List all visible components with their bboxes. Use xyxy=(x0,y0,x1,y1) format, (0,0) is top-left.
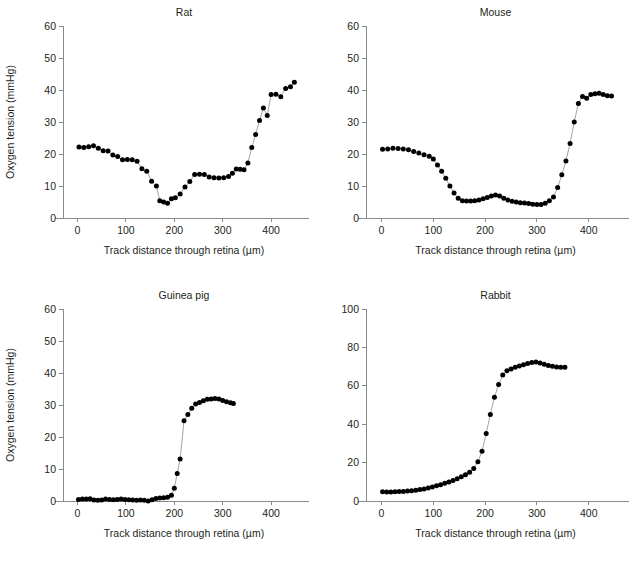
chart-svg-mouse: Mouse01020304050600100200300400Track dis… xyxy=(320,0,639,283)
x-tick-label: 300 xyxy=(214,507,232,519)
data-point xyxy=(207,175,212,180)
panel-title: Guinea pig xyxy=(159,289,210,301)
figure-root: Rat01020304050600100200300400Track dista… xyxy=(0,0,639,566)
data-point xyxy=(257,118,262,123)
data-point xyxy=(101,148,106,153)
data-point xyxy=(390,146,395,151)
data-point xyxy=(411,149,416,154)
x-axis-title: Track distance through retina (µm) xyxy=(415,527,575,539)
data-point xyxy=(182,418,187,423)
data-point xyxy=(212,175,217,180)
data-point xyxy=(269,92,274,97)
y-tick-label: 10 xyxy=(44,463,56,475)
y-tick-label: 20 xyxy=(44,148,56,160)
y-tick-label: 30 xyxy=(44,116,56,128)
data-point xyxy=(576,101,581,106)
data-point xyxy=(125,157,130,162)
data-point xyxy=(273,92,278,97)
data-point xyxy=(154,184,159,189)
data-point xyxy=(568,141,573,146)
data-point xyxy=(86,144,91,149)
data-point xyxy=(149,179,154,184)
data-point xyxy=(292,80,297,85)
chart-panel-rabbit: Rabbit0204060801000100200300400Track dis… xyxy=(320,283,639,566)
y-tick-label: 80 xyxy=(347,341,359,353)
series-markers xyxy=(380,91,614,207)
data-point xyxy=(547,198,552,203)
chart-svg-rabbit: Rabbit0204060801000100200300400Track dis… xyxy=(320,283,639,566)
data-point xyxy=(550,364,555,369)
data-point xyxy=(202,172,207,177)
data-point xyxy=(562,365,567,370)
x-axis-title: Track distance through retina (µm) xyxy=(104,527,264,539)
data-point xyxy=(456,196,461,201)
y-axis-title: Oxygen tension (mmHg) xyxy=(4,348,16,462)
x-tick-label: 100 xyxy=(117,507,135,519)
x-tick-label: 400 xyxy=(262,224,280,236)
data-point xyxy=(178,192,183,197)
x-axis-title: Track distance through retina (µm) xyxy=(104,244,264,256)
data-point xyxy=(110,152,115,157)
data-point xyxy=(533,359,538,364)
data-point xyxy=(500,373,505,378)
y-tick-label: 20 xyxy=(44,431,56,443)
data-point xyxy=(380,147,385,152)
y-tick-label: 60 xyxy=(347,20,359,32)
chart-panel-guinea-pig: Guinea pig01020304050600100200300400Trac… xyxy=(0,283,319,566)
data-point xyxy=(120,157,125,162)
data-point xyxy=(245,160,250,165)
data-point xyxy=(480,449,485,454)
x-tick-label: 200 xyxy=(166,507,184,519)
x-tick-label: 300 xyxy=(214,224,232,236)
data-point xyxy=(187,179,192,184)
y-tick-label: 40 xyxy=(347,418,359,430)
y-tick-label: 60 xyxy=(347,379,359,391)
data-point xyxy=(475,459,480,464)
data-point xyxy=(396,146,401,151)
data-point xyxy=(452,191,457,196)
chart-svg-guinea-pig: Guinea pig01020304050600100200300400Trac… xyxy=(0,283,319,566)
data-point xyxy=(231,401,236,406)
data-point xyxy=(216,176,221,181)
y-tick-label: 60 xyxy=(44,303,56,315)
data-point xyxy=(81,145,86,150)
data-point xyxy=(278,94,283,99)
y-tick-label: 20 xyxy=(347,148,359,160)
data-point xyxy=(178,457,183,462)
y-axis-title: Oxygen tension (mmHg) xyxy=(4,65,16,179)
data-point xyxy=(467,470,472,475)
data-point xyxy=(230,171,235,176)
data-point xyxy=(431,157,436,162)
data-point xyxy=(165,201,170,206)
data-point xyxy=(484,431,489,436)
data-point xyxy=(492,395,497,400)
data-point xyxy=(546,363,551,368)
y-tick-label: 0 xyxy=(353,212,359,224)
data-point xyxy=(493,192,498,197)
data-point xyxy=(471,466,476,471)
data-point xyxy=(135,159,140,164)
x-tick-label: 300 xyxy=(528,507,546,519)
y-tick-label: 0 xyxy=(50,212,56,224)
data-point xyxy=(416,151,421,156)
data-point xyxy=(221,175,226,180)
series-line xyxy=(78,399,233,501)
data-point xyxy=(115,154,120,159)
data-point xyxy=(555,185,560,190)
data-point xyxy=(197,172,202,177)
x-tick-label: 0 xyxy=(379,224,385,236)
x-tick-label: 0 xyxy=(75,224,81,236)
data-point xyxy=(189,406,194,411)
data-point xyxy=(173,195,178,200)
x-tick-label: 200 xyxy=(476,224,494,236)
data-point xyxy=(496,382,501,387)
y-tick-label: 30 xyxy=(44,399,56,411)
data-point xyxy=(401,146,406,151)
data-point xyxy=(563,159,568,164)
y-tick-label: 40 xyxy=(347,84,359,96)
y-tick-label: 50 xyxy=(44,335,56,347)
y-tick-label: 0 xyxy=(353,495,359,507)
data-point xyxy=(584,96,589,101)
y-tick-label: 50 xyxy=(44,52,56,64)
data-point xyxy=(192,172,197,177)
